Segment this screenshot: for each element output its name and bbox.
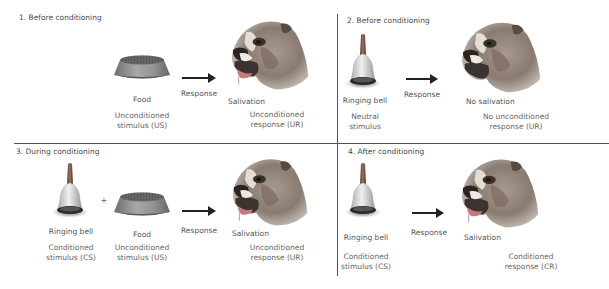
panel-title: 1. Before conditioning <box>19 13 102 22</box>
food-bowl-icon <box>112 191 172 217</box>
response-role-line1: Conditioned <box>496 252 566 262</box>
response-role-line2: response (CR) <box>496 262 566 272</box>
response-role-line2: response (UR) <box>476 122 556 132</box>
arrow-icon <box>412 208 444 218</box>
panel-title: 3. During conditioning <box>16 147 99 156</box>
stimulus-label: Ringing bell <box>46 227 96 237</box>
stimulus-role-line2: stimulus (CS) <box>341 262 391 272</box>
stimulus-role-line1: Conditioned <box>46 243 96 253</box>
stimulus-role-line1: Neutral <box>340 112 390 122</box>
food-bowl-icon <box>112 54 172 80</box>
panel-title: 2. Before conditioning <box>347 16 430 25</box>
stimulus-role-line2: stimulus (CS) <box>46 253 96 263</box>
arrow-icon <box>182 206 216 216</box>
ringing-bell-icon <box>50 162 90 222</box>
plus-sign: + <box>100 196 108 206</box>
response-label: Salivation <box>464 233 514 243</box>
vertical-divider <box>337 14 338 276</box>
ringing-bell-icon <box>343 162 383 222</box>
dog-salivating-icon <box>455 152 543 234</box>
arrow-label: Response <box>176 89 222 99</box>
response-role-line1: No unconditioned <box>476 112 556 122</box>
dog-salivating-icon <box>228 14 310 96</box>
arrow-icon <box>182 73 216 83</box>
response-role-line2: response (UR) <box>242 253 312 263</box>
response-label: No salivation <box>466 97 526 107</box>
stimulus-label: Food <box>112 95 172 105</box>
response-role-line1: Unconditioned <box>242 243 312 253</box>
response-role-line2: response (UR) <box>242 120 312 130</box>
stimulus-role-line1: Conditioned <box>341 252 391 262</box>
stimulus-role-line2: stimulus (US) <box>102 253 182 263</box>
arrow-label: Response <box>408 228 450 238</box>
arrow-label: Response <box>401 90 443 100</box>
arrow-label: Response <box>176 226 222 236</box>
panel-title: 4. After conditioning <box>348 147 424 156</box>
horizontal-divider <box>14 143 609 144</box>
stimulus-label: Ringing bell <box>341 233 391 243</box>
dog-icon <box>455 15 545 99</box>
stimulus-role-line1: Unconditioned <box>102 243 182 253</box>
response-role-line1: Unconditioned <box>242 110 312 120</box>
ringing-bell-icon <box>343 33 383 93</box>
stimulus-role-line1: Unconditioned <box>102 111 182 121</box>
stimulus-role-line2: stimulus (US) <box>102 121 182 131</box>
arrow-icon <box>406 74 438 84</box>
dog-salivating-icon <box>228 152 310 232</box>
response-label: Salivation <box>228 97 278 107</box>
stimulus-label: Ringing bell <box>340 96 390 106</box>
stimulus-label: Food <box>112 230 172 240</box>
response-label: Salivation <box>232 229 282 239</box>
stimulus-role-line2: stimulus <box>340 122 390 132</box>
